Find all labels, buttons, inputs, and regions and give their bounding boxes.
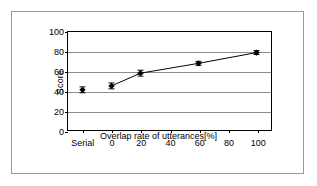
- y-tick-label: 40: [54, 87, 64, 97]
- x-axis-title: Overlap rate of utterances[%]: [0, 131, 317, 141]
- chart-figure: Score 020406080100 Serial020406080100 Ov…: [0, 0, 317, 186]
- data-series-layer: [68, 32, 271, 130]
- data-point-marker: [79, 87, 85, 93]
- y-tick-label: 80: [54, 47, 64, 57]
- plot-wrapper: Score 020406080100 Serial020406080100 Ov…: [0, 0, 317, 186]
- series-score: [79, 49, 259, 93]
- series-line: [112, 53, 257, 86]
- data-point-marker: [137, 70, 143, 76]
- plot-area: Score 020406080100 Serial020406080100: [67, 31, 272, 131]
- y-tick-label: 60: [54, 67, 64, 77]
- data-point-marker: [108, 83, 114, 89]
- y-tick-label: 100: [49, 27, 64, 37]
- y-tick-label: 20: [54, 107, 64, 117]
